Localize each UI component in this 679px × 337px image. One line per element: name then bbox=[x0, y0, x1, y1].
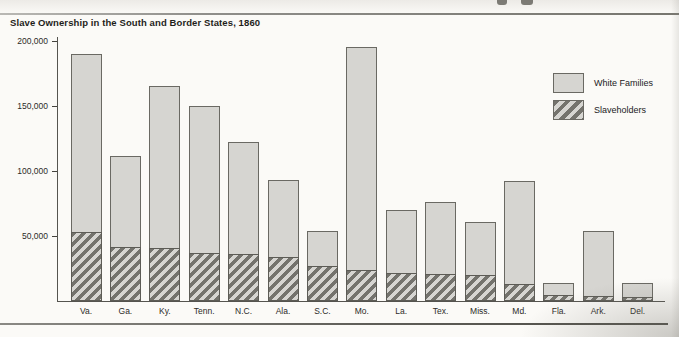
y-tick-label: 50,000 bbox=[0, 231, 48, 241]
page-top-shading bbox=[0, 0, 679, 14]
bar-slaveholders-sc bbox=[307, 266, 338, 301]
bar-white-families-la bbox=[386, 210, 417, 301]
bar-slaveholders-md bbox=[504, 284, 535, 301]
bar-slaveholders-ala bbox=[268, 257, 299, 301]
bar-slaveholders-ga bbox=[110, 247, 141, 301]
bar-white-families-md bbox=[504, 181, 535, 301]
y-axis bbox=[57, 37, 58, 301]
y-tick-label: 200,000 bbox=[0, 36, 48, 46]
legend-label: Slaveholders bbox=[594, 105, 646, 115]
bottom-horizontal-rule bbox=[0, 323, 668, 325]
cropped-text-fragment bbox=[521, 0, 533, 5]
bar-white-families-del bbox=[622, 283, 653, 301]
bar-white-families-sc bbox=[307, 231, 338, 301]
bar-white-families-miss bbox=[465, 222, 496, 301]
top-horizontal-rule bbox=[0, 13, 679, 15]
bar-white-families-nc bbox=[228, 142, 259, 301]
bar-white-families-fla bbox=[543, 283, 574, 301]
x-tick-label: Ky. bbox=[145, 306, 185, 316]
bar-slaveholders-miss bbox=[465, 275, 496, 301]
x-tick-label: Del. bbox=[618, 306, 658, 316]
y-tick-label: 100,000 bbox=[0, 166, 48, 176]
book-page-photo: Slave Ownership in the South and Border … bbox=[0, 0, 679, 337]
bar-white-families-tex bbox=[425, 202, 456, 301]
bar-slaveholders-ark bbox=[583, 296, 614, 301]
y-tick-mark bbox=[52, 171, 57, 172]
bar-slaveholders-nc bbox=[228, 254, 259, 301]
x-tick-label: Mo. bbox=[342, 306, 382, 316]
x-tick-label: Tex. bbox=[421, 306, 461, 316]
bar-white-families-ga bbox=[110, 156, 141, 301]
bar-white-families-va bbox=[71, 54, 102, 301]
x-tick-label: S.C. bbox=[302, 306, 342, 316]
bar-white-families-ala bbox=[268, 180, 299, 301]
x-tick-label: N.C. bbox=[224, 306, 264, 316]
bar-white-families-ky bbox=[149, 86, 180, 301]
bar-slaveholders-tenn bbox=[189, 253, 220, 301]
bar-slaveholders-va bbox=[71, 232, 102, 301]
bar-white-families-ark bbox=[583, 231, 614, 301]
bar-slaveholders-mo bbox=[346, 270, 377, 301]
legend-label: White Families bbox=[594, 78, 653, 88]
x-tick-label: Ark. bbox=[578, 306, 618, 316]
bar-slaveholders-la bbox=[386, 273, 417, 301]
bar-white-families-tenn bbox=[189, 106, 220, 301]
page-edge-shading bbox=[671, 0, 679, 337]
bar-slaveholders-ky bbox=[149, 248, 180, 301]
x-tick-label: Miss. bbox=[460, 306, 500, 316]
bar-slaveholders-del bbox=[622, 297, 653, 301]
x-axis bbox=[57, 301, 665, 302]
bar-slaveholders-tex bbox=[425, 274, 456, 301]
x-tick-label: Va. bbox=[66, 306, 106, 316]
slaveholders-swatch bbox=[553, 100, 584, 120]
cropped-text-fragment bbox=[497, 0, 507, 5]
y-tick-label: 150,000 bbox=[0, 101, 48, 111]
bar-slaveholders-fla bbox=[543, 295, 574, 301]
x-tick-label: Ga. bbox=[105, 306, 145, 316]
y-tick-mark bbox=[52, 106, 57, 107]
chart-title: Slave Ownership in the South and Border … bbox=[10, 17, 260, 28]
x-tick-label: Ala. bbox=[263, 306, 303, 316]
x-tick-label: La. bbox=[381, 306, 421, 316]
y-tick-mark bbox=[52, 236, 57, 237]
x-tick-label: Tenn. bbox=[184, 306, 224, 316]
white-families-swatch bbox=[553, 73, 584, 93]
y-tick-mark bbox=[52, 41, 57, 42]
x-tick-label: Md. bbox=[499, 306, 539, 316]
bar-white-families-mo bbox=[346, 47, 377, 301]
x-tick-label: Fla. bbox=[539, 306, 579, 316]
